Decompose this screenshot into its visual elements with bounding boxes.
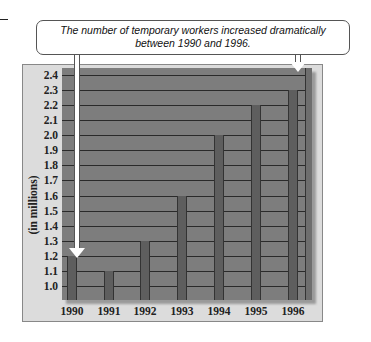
bar-1991 bbox=[104, 271, 114, 300]
x-tick-label: 1994 bbox=[199, 305, 239, 317]
gridline bbox=[62, 150, 312, 151]
plot-area bbox=[62, 68, 312, 300]
y-tick-label: 1.0 bbox=[30, 280, 58, 292]
gridline bbox=[62, 286, 312, 287]
gridline bbox=[62, 165, 312, 166]
bar-1996 bbox=[288, 90, 298, 300]
y-tick-label: 2.3 bbox=[30, 84, 58, 96]
x-tick-label: 1990 bbox=[52, 305, 92, 317]
arrow-1996-head bbox=[290, 62, 306, 72]
gridline bbox=[62, 226, 312, 227]
y-tick-label: 1.1 bbox=[30, 265, 58, 277]
callout-line-1: The number of temporary workers increase… bbox=[37, 24, 349, 37]
arrow-1990-head bbox=[69, 248, 85, 258]
y-tick-label: 2.0 bbox=[30, 129, 58, 141]
x-tick-label: 1993 bbox=[162, 305, 202, 317]
bar-1995 bbox=[251, 105, 261, 300]
gridline bbox=[62, 211, 312, 212]
y-tick-label: 2.1 bbox=[30, 114, 58, 126]
gridline bbox=[62, 120, 312, 121]
y-axis-label: (in millions) bbox=[25, 150, 41, 260]
arrow-1996-shaft bbox=[295, 54, 301, 62]
y-tick-label: 2.4 bbox=[30, 69, 58, 81]
bar-1990 bbox=[67, 256, 77, 300]
bar-1994 bbox=[214, 135, 224, 300]
bar-1993 bbox=[177, 196, 187, 300]
gridline bbox=[62, 90, 312, 91]
callout-line-2: between 1990 and 1996. bbox=[37, 37, 349, 50]
x-tick-label: 1991 bbox=[89, 305, 129, 317]
gridline bbox=[62, 256, 312, 257]
x-tick-label: 1996 bbox=[273, 305, 313, 317]
y-tick-label: 2.2 bbox=[30, 99, 58, 111]
gridline bbox=[62, 105, 312, 106]
gridline bbox=[62, 196, 312, 197]
gridline bbox=[62, 135, 312, 136]
plot-right-edge bbox=[305, 68, 312, 300]
corner-mark bbox=[0, 19, 8, 20]
gridline bbox=[62, 180, 312, 181]
gridline bbox=[62, 271, 312, 272]
gridline bbox=[62, 241, 312, 242]
arrow-1990-shaft bbox=[74, 54, 80, 248]
gridline bbox=[62, 75, 312, 76]
bar-1992 bbox=[140, 241, 150, 300]
annotation-callout: The number of temporary workers increase… bbox=[36, 20, 350, 55]
x-tick-label: 1995 bbox=[236, 305, 276, 317]
x-tick-label: 1992 bbox=[125, 305, 165, 317]
